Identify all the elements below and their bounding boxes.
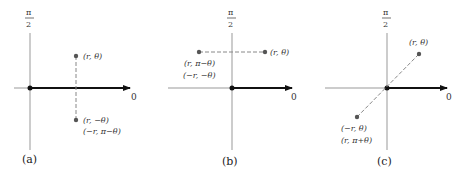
point-left xyxy=(197,50,201,54)
point-upper xyxy=(74,54,78,58)
dashed-reflection-line xyxy=(357,54,419,117)
panel-c: π 2 0 (r, θ) (−r, θ) (r, π+θ) (c) xyxy=(325,8,452,168)
point-lower xyxy=(355,115,359,119)
caption-c: (c) xyxy=(377,155,392,168)
label-r-neg-theta: (r, −θ) xyxy=(83,116,109,125)
label-neg-r-neg-theta: (−r, −θ) xyxy=(183,71,216,80)
label-neg-r-pi-minus-theta: (−r, π−θ) xyxy=(83,127,121,136)
origin-point xyxy=(230,86,235,91)
caption-a: (a) xyxy=(22,153,37,166)
panel-b: π 2 0 (r, θ) (r, π−θ) (−r, −θ) (b) xyxy=(168,8,297,168)
pi-numerator: π xyxy=(26,8,31,17)
label-r-theta: (r, θ) xyxy=(409,38,428,47)
polar-symmetry-diagrams: π 2 0 (r, θ) (r, −θ) (−r, π−θ) (a) π 2 0… xyxy=(0,0,461,179)
pi-denominator: 2 xyxy=(228,20,233,29)
point-upper xyxy=(417,52,421,56)
polar-axis-label: 0 xyxy=(291,92,297,102)
polar-axis-label: 0 xyxy=(131,92,137,102)
point-lower xyxy=(74,118,78,122)
caption-b: (b) xyxy=(222,155,238,168)
pi-denominator: 2 xyxy=(26,20,31,29)
label-r-pi-plus-theta: (r, π+θ) xyxy=(341,136,372,145)
pi-denominator: 2 xyxy=(383,20,388,29)
label-r-pi-minus-theta: (r, π−θ) xyxy=(184,59,215,68)
pi-numerator: π xyxy=(383,8,388,17)
label-r-theta: (r, θ) xyxy=(270,48,289,57)
origin-point xyxy=(28,86,33,91)
polar-axis-label: 0 xyxy=(446,92,452,102)
label-r-theta: (r, θ) xyxy=(83,52,102,61)
panel-a: π 2 0 (r, θ) (r, −θ) (−r, π−θ) (a) xyxy=(14,8,137,166)
label-neg-r-theta: (−r, θ) xyxy=(341,124,367,133)
point-right xyxy=(263,50,267,54)
pi-numerator: π xyxy=(228,8,233,17)
